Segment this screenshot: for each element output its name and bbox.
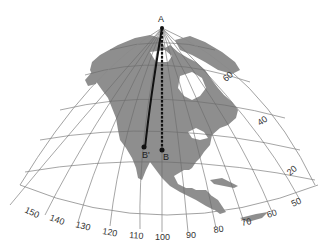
lat-label: 40 [255,114,269,128]
lon-label: 50 [290,196,303,209]
lon-label: 80 [213,224,224,235]
point-b-prime-label: B' [142,150,150,160]
lat-label: 20 [285,163,299,177]
point-b-label: B [163,152,169,162]
lon-label: 100 [155,232,170,242]
lon-label: 120 [102,226,119,238]
lon-label: 110 [129,230,144,241]
caribbean-islands [210,178,238,188]
lon-label: 130 [74,219,91,233]
lon-label: 70 [240,216,252,228]
lon-label: 60 [266,207,279,220]
longitude-labels: 150 140 130 120 110 100 90 80 70 60 50 [23,196,303,242]
map-canvas: A B B' 150 140 130 120 110 100 90 80 70 … [0,0,329,251]
lon-label: 90 [186,230,196,240]
point-b-prime-marker [142,145,147,150]
point-a-marker [160,26,164,30]
point-a-label: A [158,14,164,24]
lon-label: 150 [23,205,41,220]
latitude-labels: 60 40 20 [221,69,299,177]
lon-label: 140 [48,212,66,227]
